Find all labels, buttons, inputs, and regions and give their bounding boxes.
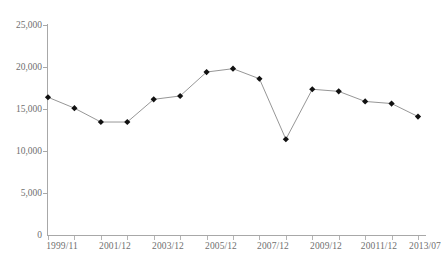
data-point xyxy=(98,119,104,125)
data-point xyxy=(283,136,289,142)
data-point xyxy=(230,66,236,72)
data-point xyxy=(256,76,262,82)
series-line xyxy=(48,69,418,140)
data-point xyxy=(415,113,421,119)
data-point xyxy=(362,98,368,104)
data-point xyxy=(45,94,51,100)
data-point xyxy=(309,86,315,92)
data-point xyxy=(71,105,77,111)
series-markers xyxy=(45,66,421,143)
data-point xyxy=(336,88,342,94)
data-point xyxy=(388,100,394,106)
